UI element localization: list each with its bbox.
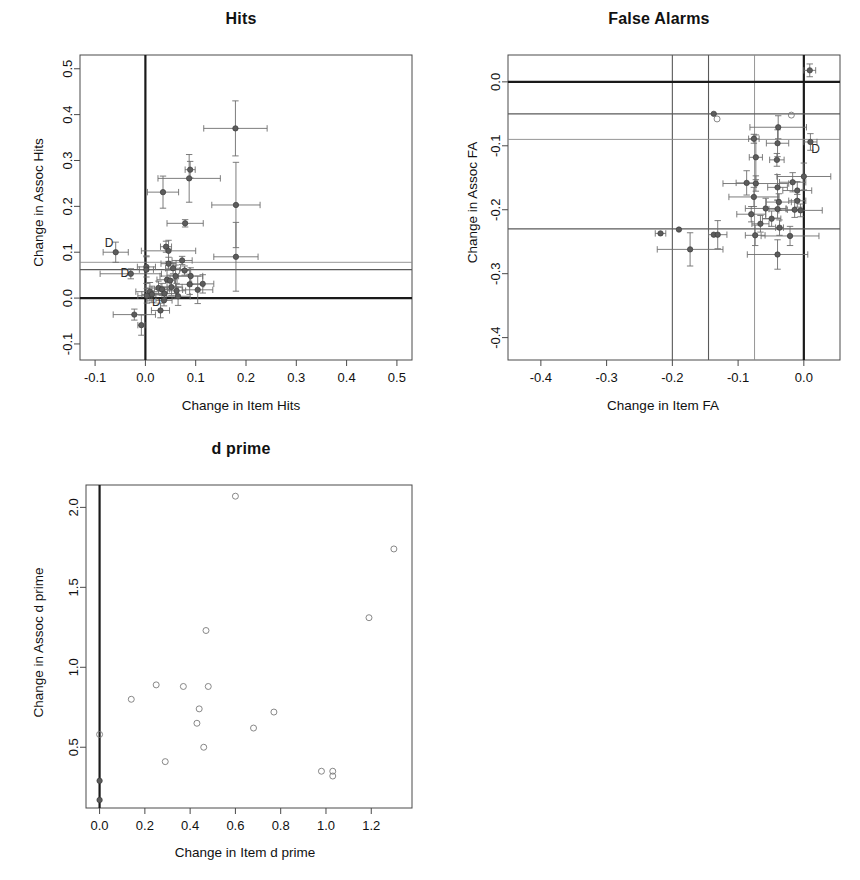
panel-hits-y-axis-title: Change in Assoc Hits bbox=[31, 103, 46, 303]
svg-text:-0.2: -0.2 bbox=[489, 199, 504, 221]
svg-text:0.5: 0.5 bbox=[388, 370, 406, 385]
svg-text:0.0: 0.0 bbox=[61, 289, 76, 307]
svg-text:D: D bbox=[105, 236, 114, 250]
panel-d-prime-plot: 0.00.20.40.60.81.01.20.51.01.52.0 bbox=[0, 430, 430, 880]
svg-text:-0.1: -0.1 bbox=[84, 370, 106, 385]
svg-text:0.6: 0.6 bbox=[226, 818, 244, 833]
svg-text:0.0: 0.0 bbox=[489, 73, 504, 91]
panel-d-prime-y-axis-title: Change in Assoc d prime bbox=[31, 533, 46, 753]
svg-text:0.0: 0.0 bbox=[136, 370, 154, 385]
svg-text:D: D bbox=[152, 295, 161, 309]
svg-text:1.0: 1.0 bbox=[317, 818, 335, 833]
svg-text:1.0: 1.0 bbox=[67, 658, 82, 676]
svg-text:0.3: 0.3 bbox=[61, 151, 76, 169]
svg-text:-0.1: -0.1 bbox=[727, 370, 749, 385]
svg-text:-0.1: -0.1 bbox=[61, 333, 76, 355]
panel-false-alarms-y-axis-title: Change in Assoc FA bbox=[465, 103, 480, 303]
svg-text:0.5: 0.5 bbox=[67, 738, 82, 756]
svg-text:-0.3: -0.3 bbox=[489, 262, 504, 284]
svg-text:0.2: 0.2 bbox=[237, 370, 255, 385]
figure-root: Hits DDD-0.10.00.10.20.30.40.5-0.10.00.1… bbox=[0, 0, 860, 880]
svg-text:0.4: 0.4 bbox=[181, 818, 199, 833]
panel-hits: Hits DDD-0.10.00.10.20.30.40.5-0.10.00.1… bbox=[0, 0, 430, 430]
panel-hits-plot: DDD-0.10.00.10.20.30.40.5-0.10.00.10.20.… bbox=[0, 0, 430, 430]
svg-text:0.0: 0.0 bbox=[795, 370, 813, 385]
svg-text:0.4: 0.4 bbox=[61, 106, 76, 124]
panel-false-alarms: False Alarms D-0.4-0.3-0.2-0.10.0-0.4-0.… bbox=[430, 0, 860, 430]
svg-text:-0.4: -0.4 bbox=[489, 326, 504, 348]
svg-text:0.2: 0.2 bbox=[61, 197, 76, 215]
svg-text:1.2: 1.2 bbox=[362, 818, 380, 833]
svg-text:-0.4: -0.4 bbox=[530, 370, 552, 385]
svg-text:2.0: 2.0 bbox=[67, 498, 82, 516]
svg-text:0.3: 0.3 bbox=[287, 370, 305, 385]
panel-d-prime: d prime 0.00.20.40.60.81.01.20.51.01.52.… bbox=[0, 430, 430, 880]
svg-text:0.1: 0.1 bbox=[187, 370, 205, 385]
svg-text:0.4: 0.4 bbox=[338, 370, 356, 385]
svg-text:D: D bbox=[811, 142, 820, 156]
svg-text:0.2: 0.2 bbox=[136, 818, 154, 833]
svg-text:-0.3: -0.3 bbox=[595, 370, 617, 385]
svg-text:-0.1: -0.1 bbox=[489, 135, 504, 157]
panel-hits-x-axis-title: Change in Item Hits bbox=[0, 398, 456, 413]
panel-false-alarms-plot: D-0.4-0.3-0.2-0.10.0-0.4-0.3-0.2-0.10.0 bbox=[430, 0, 860, 430]
svg-text:0.5: 0.5 bbox=[61, 60, 76, 78]
svg-text:D: D bbox=[120, 266, 129, 280]
panel-d-prime-x-axis-title: Change in Item d prime bbox=[0, 845, 460, 860]
svg-text:0.1: 0.1 bbox=[61, 243, 76, 261]
svg-text:-0.2: -0.2 bbox=[661, 370, 683, 385]
svg-text:0.0: 0.0 bbox=[91, 818, 109, 833]
svg-text:0.8: 0.8 bbox=[272, 818, 290, 833]
panel-false-alarms-x-axis-title: Change in Item FA bbox=[430, 398, 860, 413]
svg-text:1.5: 1.5 bbox=[67, 578, 82, 596]
